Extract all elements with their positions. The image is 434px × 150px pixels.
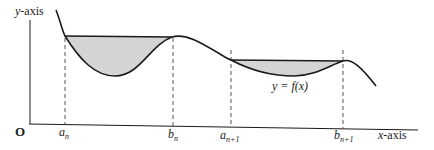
origin-label: O <box>15 124 25 140</box>
point-label-bn1: bn+1 <box>334 128 353 144</box>
shaded-region-1 <box>65 36 172 76</box>
function-label: y = f(x) <box>272 79 308 94</box>
point-label-an1: an+1 <box>220 128 239 144</box>
point-label-bn: bn <box>168 127 178 143</box>
point-label-an: an <box>59 125 69 141</box>
x-axis-label: x-axis <box>378 128 407 143</box>
y-axis-label: y-axis <box>15 4 44 19</box>
